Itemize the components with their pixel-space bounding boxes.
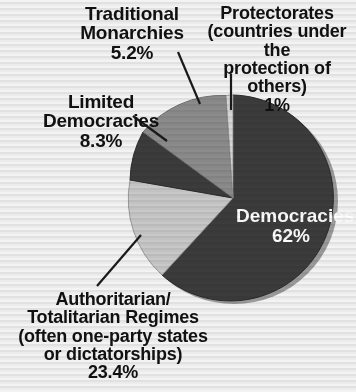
label-authoritarian-line3: (often one-party states bbox=[2, 327, 224, 345]
label-limited-democracies: Limited Democracies 8.3% bbox=[28, 92, 174, 150]
label-protectorates-line1: Protectorates bbox=[198, 4, 356, 22]
label-authoritarian-line2: Totalitarian Regimes bbox=[2, 308, 224, 326]
label-protectorates-line3: protection of others) bbox=[198, 59, 356, 96]
label-democracies: Democracies 62% bbox=[236, 206, 346, 246]
label-protectorates-line2: (countries under the bbox=[198, 22, 356, 59]
label-democracies-percent: 62% bbox=[236, 226, 346, 246]
label-limited-democracies-line2: Democracies bbox=[28, 111, 174, 130]
label-traditional-monarchies-line2: Monarchies bbox=[58, 23, 206, 42]
label-authoritarian-percent: 23.4% bbox=[2, 363, 224, 381]
label-traditional-monarchies-line1: Traditional bbox=[58, 4, 206, 23]
label-limited-democracies-line1: Limited bbox=[28, 92, 174, 111]
pie-chart: Traditional Monarchies 5.2% Protectorate… bbox=[0, 0, 356, 392]
label-traditional-monarchies: Traditional Monarchies 5.2% bbox=[58, 4, 206, 62]
leader-line-authoritarian bbox=[97, 235, 141, 286]
label-democracies-name: Democracies bbox=[236, 206, 346, 226]
label-limited-democracies-percent: 8.3% bbox=[28, 131, 174, 150]
label-authoritarian-line4: or dictatorships) bbox=[2, 345, 224, 363]
label-traditional-monarchies-percent: 5.2% bbox=[58, 43, 206, 62]
label-protectorates: Protectorates (countries under the prote… bbox=[198, 4, 356, 114]
label-protectorates-percent: 1% bbox=[198, 96, 356, 114]
label-authoritarian: Authoritarian/ Totalitarian Regimes (oft… bbox=[2, 290, 224, 382]
label-authoritarian-line1: Authoritarian/ bbox=[2, 290, 224, 308]
